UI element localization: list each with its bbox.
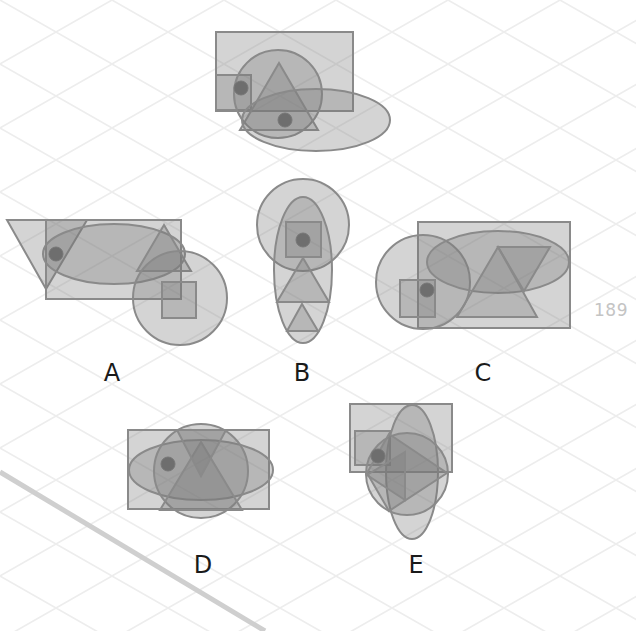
option-b-figure[interactable] <box>257 179 349 343</box>
option-d-label[interactable]: D <box>194 553 212 577</box>
option-a-dot <box>49 247 63 261</box>
option-b-dot <box>296 233 310 247</box>
option-d-dot <box>161 457 175 471</box>
figures-canvas <box>0 0 636 631</box>
question-dot-2 <box>278 113 292 127</box>
option-a-square <box>162 282 196 318</box>
page-number: 189 <box>594 300 628 320</box>
option-e-figure[interactable] <box>350 404 452 539</box>
option-e-label[interactable]: E <box>408 553 423 577</box>
question-figure <box>216 32 390 151</box>
question-ellipse <box>242 89 390 151</box>
puzzle-page: A B C D E 189 <box>0 0 636 631</box>
option-c-figure[interactable] <box>376 222 570 329</box>
option-b-label[interactable]: B <box>294 361 310 385</box>
option-d-figure[interactable] <box>128 424 273 518</box>
question-dot-1 <box>234 81 248 95</box>
option-a-label[interactable]: A <box>104 361 120 385</box>
option-e-dot <box>371 449 385 463</box>
option-a-figure[interactable] <box>7 220 227 345</box>
option-c-dot <box>420 283 434 297</box>
option-c-label[interactable]: C <box>475 361 492 385</box>
